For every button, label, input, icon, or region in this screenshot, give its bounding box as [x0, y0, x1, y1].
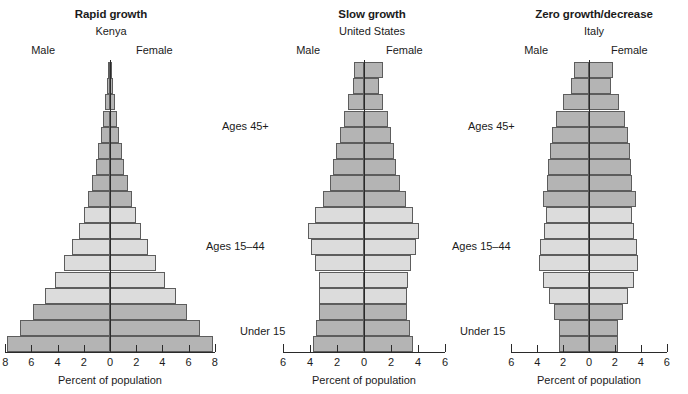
male-label-kenya: Male: [15, 44, 55, 56]
x-tick-italy-4: [615, 345, 616, 352]
bar-female-united-states-35–39: [364, 223, 419, 239]
panel-subtitle-united-states: United States: [276, 25, 468, 37]
female-label-united-states: Female: [386, 44, 436, 56]
bar-female-kenya-55–59: [110, 159, 124, 175]
bar-female-united-states-25–29: [364, 255, 411, 271]
x-tick-united-states-4: [391, 345, 392, 352]
age-band-label-middle: Ages 15–44: [206, 240, 265, 252]
bar-male-italy-15–19: [549, 288, 589, 304]
bar-female-kenya-40–44: [110, 207, 136, 223]
x-tick-kenya-2: [58, 345, 59, 352]
x-tick-label-united-states-2: 2: [327, 356, 347, 368]
bar-male-italy-25–29: [539, 255, 589, 271]
bar-female-united-states-5–9: [364, 320, 410, 336]
bar-female-united-states-40–44: [364, 207, 413, 223]
bar-female-kenya-35–39: [110, 223, 141, 239]
bar-male-italy-80–84: [571, 78, 589, 94]
age-band-label-top: Ages 45+: [222, 120, 269, 132]
x-axis-title-italy: Percent of population: [519, 374, 659, 386]
bar-male-italy-5–9: [559, 320, 589, 336]
panel-title-kenya: Rapid growth: [0, 8, 222, 20]
bar-male-united-states-40–44: [315, 207, 364, 223]
bar-male-kenya-65–69: [101, 127, 110, 143]
x-tick-label-kenya-1: 6: [21, 356, 41, 368]
bar-female-italy-25–29: [589, 255, 638, 271]
bar-female-united-states-10–14: [364, 304, 407, 320]
bar-male-united-states-65–69: [340, 127, 364, 143]
bar-female-italy-40–44: [589, 207, 632, 223]
x-tick-italy-3: [589, 345, 590, 352]
bar-female-italy-30–34: [589, 239, 637, 255]
female-label-italy: Female: [611, 44, 661, 56]
bar-male-italy-35–39: [544, 223, 589, 239]
bar-female-italy-70–74: [589, 111, 625, 127]
bar-male-united-states-25–29: [315, 255, 364, 271]
x-tick-united-states-2: [337, 345, 338, 352]
bar-female-kenya-25–29: [110, 255, 156, 271]
bar-male-italy-55–59: [548, 159, 589, 175]
x-tick-kenya-1: [31, 345, 32, 352]
bar-male-united-states-5–9: [316, 320, 364, 336]
x-tick-united-states-3: [364, 345, 365, 352]
bar-male-united-states-15–19: [319, 288, 364, 304]
bar-female-kenya-70–74: [110, 111, 117, 127]
bar-male-kenya-5–9: [20, 320, 110, 336]
bar-female-italy-55–59: [589, 159, 631, 175]
bar-male-italy-70–74: [556, 111, 589, 127]
bar-female-italy-60–64: [589, 143, 630, 159]
x-axis-title-united-states: Percent of population: [294, 374, 434, 386]
bar-female-italy-15–19: [589, 288, 628, 304]
bar-male-italy-50–54: [547, 175, 589, 191]
bar-male-united-states-60–64: [336, 143, 364, 159]
bar-male-kenya-25–29: [64, 255, 110, 271]
panel-subtitle-italy: Italy: [500, 25, 688, 37]
bar-male-kenya-60–64: [98, 143, 110, 159]
bar-female-united-states-50–54: [364, 175, 400, 191]
bar-male-united-states-0–4: [313, 336, 364, 352]
x-tick-kenya-0: [5, 344, 6, 352]
bar-male-united-states-20–24: [319, 272, 364, 288]
x-tick-united-states-0: [283, 344, 284, 352]
x-tick-label-kenya-2: 4: [48, 356, 68, 368]
x-tick-label-kenya-7: 6: [179, 356, 199, 368]
bar-female-kenya-5–9: [110, 320, 200, 336]
x-tick-italy-2: [563, 345, 564, 352]
x-tick-kenya-6: [162, 345, 163, 352]
panel-title-united-states: Slow growth: [276, 8, 468, 20]
panel-title-italy: Zero growth/decrease: [500, 8, 688, 20]
bar-female-united-states-15–19: [364, 288, 407, 304]
male-label-united-states: Male: [280, 44, 320, 56]
bar-female-united-states-30–34: [364, 239, 416, 255]
bar-female-united-states-45–49: [364, 191, 406, 207]
bar-female-kenya-20–24: [110, 272, 165, 288]
bar-female-italy-10–14: [589, 304, 623, 320]
bar-male-united-states-10–14: [319, 304, 364, 320]
bar-female-kenya-45–49: [110, 191, 132, 207]
center-axis-kenya: [110, 60, 111, 352]
x-axis-line-kenya: [5, 352, 215, 353]
bar-male-italy-20–24: [543, 272, 589, 288]
x-tick-label-italy-3: 0: [579, 356, 599, 368]
male-label-italy: Male: [508, 44, 548, 56]
bar-female-united-states-70–74: [364, 111, 388, 127]
bar-male-united-states-45–49: [323, 191, 364, 207]
x-tick-label-united-states-3: 0: [354, 356, 374, 368]
x-tick-label-united-states-4: 2: [381, 356, 401, 368]
bar-female-italy-50–54: [589, 175, 632, 191]
bar-female-italy-5–9: [589, 320, 618, 336]
x-tick-kenya-5: [136, 345, 137, 352]
x-tick-kenya-7: [189, 345, 190, 352]
x-tick-label-italy-6: 6: [657, 356, 677, 368]
bar-male-italy-75–79: [563, 94, 589, 110]
x-tick-kenya-3: [84, 345, 85, 352]
bar-male-kenya-50–54: [92, 175, 110, 191]
center-axis-italy: [589, 60, 590, 352]
bar-male-italy-85+: [574, 62, 589, 78]
bar-female-italy-0–4: [589, 336, 618, 352]
x-tick-united-states-6: [445, 344, 446, 352]
bar-male-united-states-55–59: [333, 159, 364, 175]
x-tick-label-italy-5: 4: [631, 356, 651, 368]
bar-female-italy-75–79: [589, 94, 619, 110]
bar-female-italy-85+: [589, 62, 613, 78]
bar-female-kenya-15–19: [110, 288, 176, 304]
